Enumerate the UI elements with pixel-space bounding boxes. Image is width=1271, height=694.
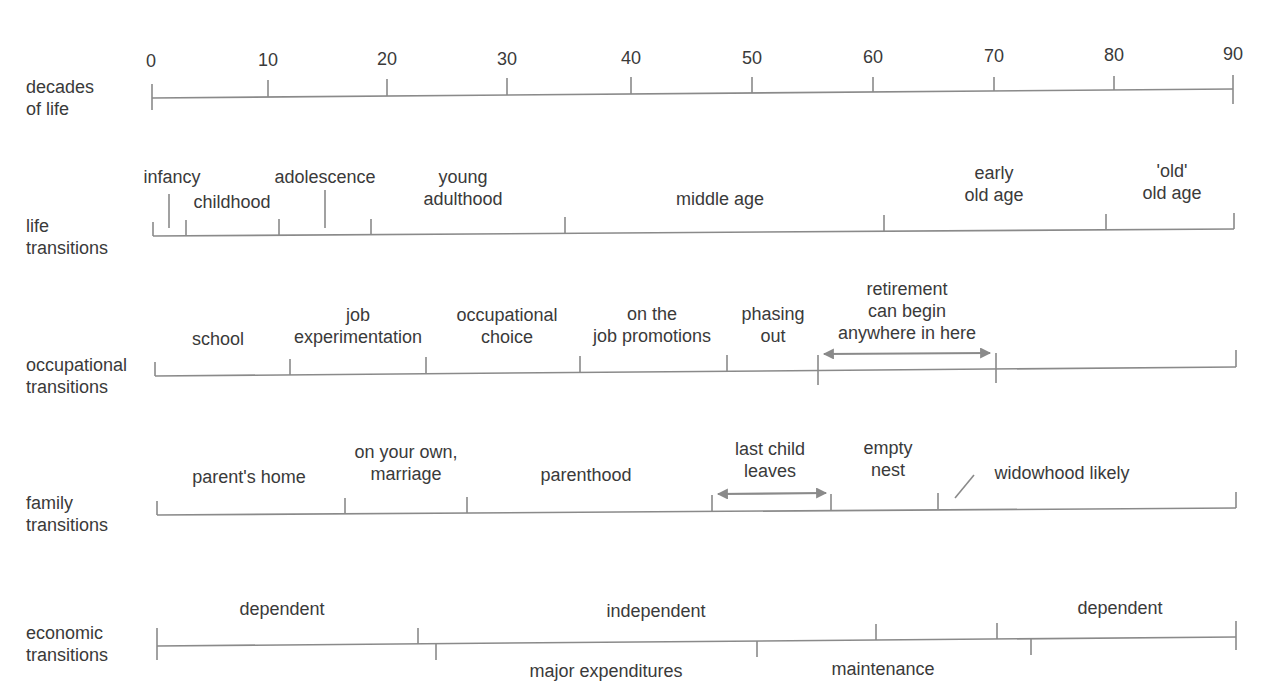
tick-50: 50 — [742, 47, 762, 69]
segment-text: on your own, — [354, 441, 457, 463]
economic-axis — [157, 621, 1236, 660]
segment-parents-home: parent's home — [192, 466, 306, 488]
segment-text: independent — [606, 600, 705, 622]
row-label-decades: decades of life — [26, 76, 94, 120]
segment-text: school — [192, 328, 244, 350]
segment-text: last child — [735, 438, 805, 460]
segment-widowhood-likely: widowhood likely — [994, 462, 1129, 484]
life-stages-diagram: decades of life 0 10 20 30 40 50 60 70 8… — [0, 0, 1271, 694]
row-label-line: transitions — [26, 376, 127, 398]
segment-text: choice — [456, 326, 557, 348]
segment-text: can begin — [838, 300, 976, 322]
segment-text: old age — [1142, 182, 1201, 204]
row-label-line: economic — [26, 622, 108, 644]
row-label-line: transitions — [26, 514, 108, 536]
segment-text: infancy — [143, 166, 200, 188]
segment-empty-nest: empty nest — [863, 437, 912, 481]
segment-parenthood: parenthood — [540, 464, 631, 486]
segment-text: adolescence — [274, 166, 375, 188]
segment-middle-age: middle age — [676, 188, 764, 210]
segment-text: job — [294, 304, 422, 326]
occupational-axis — [155, 350, 1236, 385]
segment-text: 'old' — [1142, 160, 1201, 182]
segment-text: major expenditures — [529, 660, 682, 682]
row-label-life: life transitions — [26, 215, 108, 259]
tick-70: 70 — [984, 45, 1004, 67]
segment-text: widowhood likely — [994, 462, 1129, 484]
row-label-occupational: occupational transitions — [26, 354, 127, 398]
segment-text: marriage — [354, 463, 457, 485]
segment-text: adulthood — [423, 188, 502, 210]
tick-0: 0 — [146, 50, 156, 72]
segment-job-experimentation: job experimentation — [294, 304, 422, 348]
segment-adolescence: adolescence — [274, 166, 375, 188]
tick-60: 60 — [863, 46, 883, 68]
segment-on-your-own-marriage: on your own, marriage — [354, 441, 457, 485]
segment-text: middle age — [676, 188, 764, 210]
segment-text: early — [964, 162, 1023, 184]
segment-retirement: retirement can begin anywhere in here — [838, 278, 976, 344]
tick-90: 90 — [1223, 43, 1243, 65]
segment-text: anywhere in here — [838, 322, 976, 344]
segment-text: occupational — [456, 304, 557, 326]
segment-text: out — [741, 325, 804, 347]
segment-text: parenthood — [540, 464, 631, 486]
segment-childhood: childhood — [193, 191, 270, 213]
segment-text: old age — [964, 184, 1023, 206]
segment-text: leaves — [735, 460, 805, 482]
row-label-line: transitions — [26, 237, 108, 259]
row-label-line: transitions — [26, 644, 108, 666]
segment-infancy: infancy — [143, 166, 200, 188]
segment-last-child-leaves: last child leaves — [735, 438, 805, 482]
row-label-line: family — [26, 492, 108, 514]
segment-text: childhood — [193, 191, 270, 213]
row-label-line: occupational — [26, 354, 127, 376]
row-label-line: decades — [26, 76, 94, 98]
segment-text: nest — [863, 459, 912, 481]
row-label-economic: economic transitions — [26, 622, 108, 666]
segment-text: dependent — [239, 598, 324, 620]
tick-10: 10 — [258, 49, 278, 71]
segment-text: maintenance — [831, 658, 934, 680]
segment-occupational-choice: occupational choice — [456, 304, 557, 348]
tick-80: 80 — [1104, 44, 1124, 66]
segment-text: experimentation — [294, 326, 422, 348]
segment-text: parent's home — [192, 466, 306, 488]
segment-dependent-early: dependent — [239, 598, 324, 620]
segment-on-the-job-promotions: on the job promotions — [593, 303, 711, 347]
diagram-lines — [0, 0, 1271, 694]
segment-independent: independent — [606, 600, 705, 622]
segment-text: retirement — [838, 278, 976, 300]
segment-maintenance: maintenance — [831, 658, 934, 680]
segment-phasing-out: phasing out — [741, 303, 804, 347]
tick-20: 20 — [377, 48, 397, 70]
segment-text: on the — [593, 303, 711, 325]
segment-school: school — [192, 328, 244, 350]
segment-text: phasing — [741, 303, 804, 325]
segment-dependent-late: dependent — [1077, 597, 1162, 619]
segment-text: dependent — [1077, 597, 1162, 619]
row-label-family: family transitions — [26, 492, 108, 536]
segment-old-old-age: 'old' old age — [1142, 160, 1201, 204]
segment-text: empty — [863, 437, 912, 459]
segment-text: young — [423, 166, 502, 188]
segment-text: job promotions — [593, 325, 711, 347]
row-label-line: life — [26, 215, 108, 237]
tick-30: 30 — [497, 48, 517, 70]
segment-early-old-age: early old age — [964, 162, 1023, 206]
decades-axis — [152, 75, 1233, 110]
segment-major-expenditures: major expenditures — [529, 660, 682, 682]
row-label-line: of life — [26, 98, 94, 120]
tick-40: 40 — [621, 47, 641, 69]
segment-young-adulthood: young adulthood — [423, 166, 502, 210]
